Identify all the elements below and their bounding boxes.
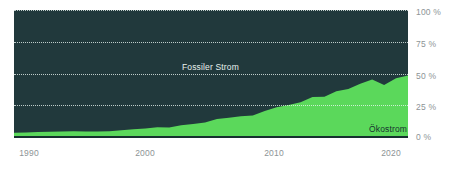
y-tick-label: 50 % bbox=[416, 71, 436, 81]
plot-area: Fossiler Strom Ökostrom bbox=[14, 10, 408, 137]
y-axis: 100 % 75 % 50 % 25 % 0 % bbox=[416, 0, 463, 171]
x-tick-label: 2000 bbox=[135, 148, 155, 158]
y-tick-label: 75 % bbox=[416, 39, 436, 49]
stacked-area-series bbox=[14, 10, 408, 137]
eco-area-path bbox=[14, 75, 408, 137]
x-tick-label: 2010 bbox=[264, 148, 284, 158]
y-tick-label: 25 % bbox=[416, 102, 436, 112]
x-tick-label: 1990 bbox=[19, 148, 39, 158]
x-axis: 1990 2000 2010 2020 bbox=[0, 148, 463, 166]
series-label-eco: Ökostrom bbox=[369, 124, 407, 134]
series-label-fossil: Fossiler Strom bbox=[182, 62, 239, 72]
y-tick-label: 0 % bbox=[416, 132, 431, 142]
area-chart: Fossiler Strom Ökostrom 100 % 75 % 50 % … bbox=[0, 0, 463, 171]
x-tick-label: 2020 bbox=[381, 148, 401, 158]
x-axis-baseline bbox=[14, 136, 408, 138]
y-tick-label: 100 % bbox=[416, 7, 441, 17]
